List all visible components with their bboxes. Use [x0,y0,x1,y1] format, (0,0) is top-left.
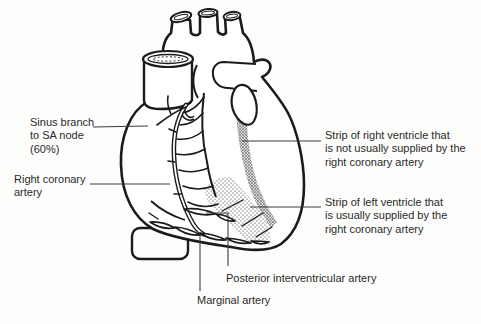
label-sinus-branch: Sinus branch to SA node (60%) [30,116,110,156]
label-right-coronary-artery: Right coronary artery [14,173,104,200]
aortic-branch-stub-2 [198,8,218,18]
heart-coronary-diagram: Sinus branch to SA node (60%) Right coro… [0,0,481,324]
label-strip-left-ventricle: Strip of left ventricle that is usually … [325,196,480,236]
svc-rim-outer [143,51,193,67]
label-strip-right-ventricle: Strip of right ventricle that is not usu… [325,129,480,169]
pulmonary-trunk [213,62,257,91]
label-posterior-interventricular-artery: Posterior interventricular artery [226,272,406,285]
label-marginal-artery: Marginal artery [197,294,297,307]
